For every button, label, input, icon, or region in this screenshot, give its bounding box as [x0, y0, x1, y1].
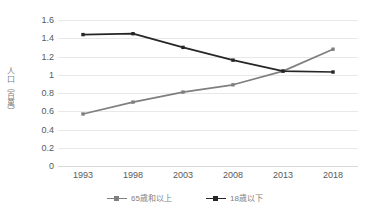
y-axis-title: 人口（百萬） [2, 38, 18, 143]
plot-lines [58, 20, 358, 166]
data-point-marker [181, 90, 184, 93]
y-axis-tick-label: 0.6 [22, 107, 54, 116]
gridline [58, 166, 358, 167]
data-point-marker [131, 100, 134, 103]
x-axis-tick-label: 2008 [208, 170, 258, 181]
x-axis-tick-labels: 199319982003200820132018 [58, 170, 358, 184]
legend-marker-icon [107, 194, 127, 203]
line-chart: 人口（百萬） 00.20.40.60.811.21.41.6 199319982… [0, 0, 370, 217]
y-axis-tick-label: 0.8 [22, 89, 54, 98]
data-point-marker [331, 70, 334, 73]
legend-item[interactable]: 18歳以下 [206, 194, 263, 203]
y-axis-tick-labels: 00.20.40.60.811.21.41.6 [22, 0, 54, 170]
data-point-marker [81, 112, 84, 115]
data-point-marker [181, 46, 184, 49]
legend-label: 18歳以下 [230, 194, 263, 203]
y-axis-tick-label: 0.4 [22, 125, 54, 134]
legend-label: 65歳和以上 [131, 194, 172, 203]
x-axis-tick-label: 1998 [108, 170, 158, 181]
x-axis-tick-label: 2018 [308, 170, 358, 181]
data-point-marker [131, 32, 134, 35]
data-point-marker [281, 69, 284, 72]
data-point-marker [81, 33, 84, 36]
data-point-marker [331, 48, 334, 51]
y-axis-tick-label: 0 [22, 162, 54, 171]
legend-item[interactable]: 65歳和以上 [107, 194, 172, 203]
chart-legend: 65歳和以上18歳以下 [0, 190, 370, 206]
data-point-marker [231, 58, 234, 61]
x-axis-tick-label: 2013 [258, 170, 308, 181]
y-axis-tick-label: 1.4 [22, 34, 54, 43]
y-axis-tick-label: 1 [22, 70, 54, 79]
plot-area [58, 20, 358, 166]
y-axis-tick-label: 1.2 [22, 52, 54, 61]
legend-marker-icon [206, 194, 226, 203]
x-axis-tick-label: 2003 [158, 170, 208, 181]
y-axis-tick-label: 1.6 [22, 16, 54, 25]
series-line [83, 49, 333, 114]
y-axis-tick-label: 0.2 [22, 143, 54, 152]
x-axis-tick-label: 1993 [58, 170, 108, 181]
data-point-marker [231, 83, 234, 86]
